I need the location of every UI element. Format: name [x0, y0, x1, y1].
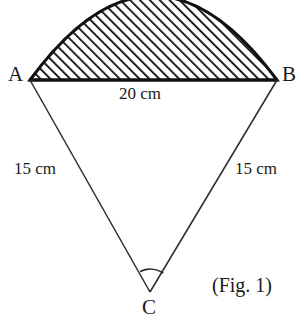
measure-label-chord-ab: 20 cm — [119, 85, 161, 102]
vertex-label-c: C — [142, 297, 156, 318]
radius-line-ac — [30, 80, 150, 292]
vertex-label-b: B — [282, 64, 296, 85]
measure-label-radius-ac: 15 cm — [14, 160, 56, 177]
radius-line-bc — [150, 80, 277, 292]
measure-label-radius-bc: 15 cm — [235, 160, 277, 177]
geometry-figure: A B C 20 cm 15 cm 15 cm (Fig. 1) — [0, 0, 305, 321]
segment-hatch-fill — [30, 0, 277, 80]
vertex-label-a: A — [8, 64, 23, 85]
figure-caption: (Fig. 1) — [212, 275, 272, 295]
angle-arc-at-c — [140, 269, 163, 273]
hatched-segment-region — [30, 0, 277, 80]
